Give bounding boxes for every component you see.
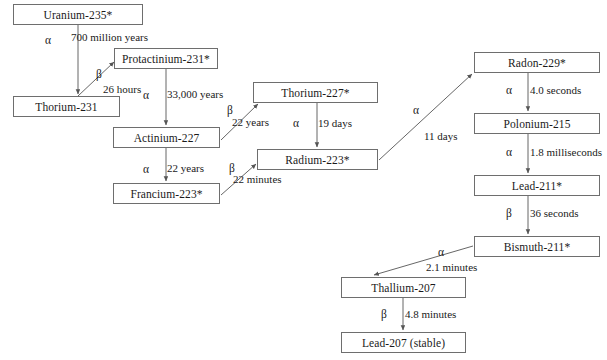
decay-particle-label-e10: α <box>506 146 512 158</box>
nuclide-label: Radon-229* <box>508 57 566 69</box>
nuclide-label: Lead-207 (stable) <box>362 337 445 349</box>
decay-particle-label-e12: α <box>438 246 444 258</box>
nuclide-label: Francium-223* <box>130 188 202 200</box>
decay-particle-label-e11: β <box>506 207 512 219</box>
decay-particle-label-e8: α <box>413 104 419 116</box>
nuclide-label: Uranium-235* <box>44 9 113 21</box>
nuclide-node-u235: Uranium-235* <box>13 4 143 25</box>
decay-particle-label-e9: α <box>506 84 512 96</box>
nuclide-label: Bismuth-211* <box>504 241 571 253</box>
halflife-label-e12: 2.1 minutes <box>426 261 477 273</box>
nuclide-label: Thallium-207 <box>371 282 435 294</box>
decay-particle-label-e5: α <box>143 163 149 175</box>
halflife-label-e5: 22 years <box>167 162 204 174</box>
nuclide-label: Radium-223* <box>285 154 349 166</box>
halflife-label-e4: 22 years <box>232 116 269 128</box>
nuclide-node-fr223: Francium-223* <box>113 183 220 204</box>
nuclide-node-pb207: Lead-207 (stable) <box>341 332 466 353</box>
nuclide-node-bi211: Bismuth-211* <box>474 236 600 257</box>
decay-particle-label-e3: α <box>143 89 149 101</box>
nuclide-node-rn229: Radon-229* <box>474 52 600 73</box>
nuclide-label: Lead-211* <box>512 180 562 192</box>
nuclide-label: Polonium-215 <box>503 118 570 130</box>
nuclide-node-pb211: Lead-211* <box>474 175 600 196</box>
nuclide-label: Thorium-227* <box>281 87 349 99</box>
nuclide-node-ac227: Actinium-227 <box>113 127 220 148</box>
halflife-label-e6: 19 days <box>318 117 352 129</box>
decay-arrow-ra223-to-rn229 <box>379 74 472 160</box>
nuclide-node-th231: Thorium-231 <box>13 96 120 117</box>
nuclide-label: Actinium-227 <box>134 132 200 144</box>
halflife-label-e1: 700 million years <box>71 31 148 43</box>
decay-particle-label-e4: β <box>227 104 233 116</box>
halflife-label-e7: 22 minutes <box>233 173 282 185</box>
halflife-label-e11: 36 seconds <box>530 207 579 219</box>
nuclide-label: Thorium-231 <box>35 101 97 113</box>
nuclide-node-ra223: Radium-223* <box>257 149 378 170</box>
nuclide-node-pa231: Protactinium-231* <box>114 48 218 69</box>
nuclide-node-po215: Polonium-215 <box>474 113 600 134</box>
halflife-label-e2: 26 hours <box>103 83 141 95</box>
halflife-label-e13: 4.8 minutes <box>405 308 456 320</box>
halflife-label-e10: 1.8 milliseconds <box>530 146 602 158</box>
decay-particle-label-e6: α <box>293 117 299 129</box>
decay-chain-diagram: Uranium-235*Thorium-231Protactinium-231*… <box>0 0 607 360</box>
halflife-label-e8: 11 days <box>424 130 458 142</box>
decay-particle-label-e13: β <box>381 308 387 320</box>
decay-particle-label-e1: α <box>45 34 51 46</box>
nuclide-node-tl207: Thallium-207 <box>341 277 466 298</box>
nuclide-label: Protactinium-231* <box>122 53 210 65</box>
halflife-label-e9: 4.0 seconds <box>530 84 581 96</box>
decay-particle-label-e2: β <box>96 68 102 80</box>
halflife-label-e3: 33,000 years <box>167 88 223 100</box>
nuclide-node-th227: Thorium-227* <box>253 82 378 103</box>
